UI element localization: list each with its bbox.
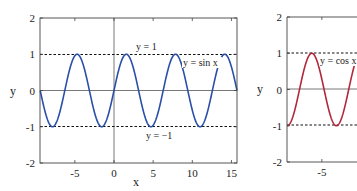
y-axis-label: y [257,82,263,96]
chart-canvas: -2-1012 -5051015 y x y = 1 y = sin x y =… [0,0,357,191]
annotation-cos-label: y = cos x [320,55,356,66]
x-tick-label: -5 [70,167,80,179]
x-tick-label: 0 [111,167,117,179]
tick-marks [287,17,322,162]
y-tick-label: 2 [277,11,283,23]
y-tick-label: 2 [30,12,36,24]
y-tick-label: 1 [277,47,283,59]
annotation-y-equals-1: y = 1 [136,41,157,52]
y-tick-label: -2 [26,157,35,169]
y-tick-label: 0 [277,84,283,96]
y-tick-label: -1 [26,121,35,133]
y-tick-label: -1 [273,120,282,132]
sin-plot: -2-1012 -5051015 y x y = 1 y = sin x y =… [10,12,237,189]
x-axis-label: x [133,175,139,189]
y-tick-label: 0 [30,85,36,97]
cos-plot: -2-1012 -5 y y = cos x [257,11,357,178]
y-tick-label: 1 [30,48,36,60]
y-tick-label: -2 [273,156,282,168]
x-tick-label: 5 [150,167,156,179]
x-tick-label: 10 [187,167,199,179]
annotation-y-equals-minus-1: y = −1 [146,130,172,141]
x-tick-label: 15 [226,167,238,179]
y-axis-label: y [10,84,16,98]
annotation-sin-label: y = sin x [183,57,218,68]
x-tick-label: -5 [317,166,327,178]
